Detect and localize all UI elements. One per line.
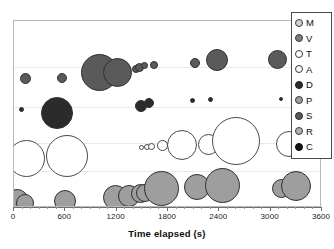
- plot-area: [13, 20, 321, 207]
- x-tick-label: 600: [58, 212, 72, 221]
- x-tick-mark: [270, 207, 271, 211]
- legend-item-label: V: [306, 34, 312, 44]
- x-minor-tick: [278, 207, 279, 209]
- x-minor-tick: [235, 207, 236, 209]
- x-minor-tick: [201, 207, 202, 209]
- legend-item-c[interactable]: C: [295, 139, 331, 155]
- bubble-marker: [141, 62, 148, 69]
- x-minor-tick: [39, 207, 40, 209]
- x-minor-tick: [107, 207, 108, 209]
- bubble-marker: [208, 97, 213, 102]
- bubble-marker: [279, 97, 283, 101]
- legend-marker-icon: [295, 96, 303, 104]
- bubble-marker: [144, 171, 179, 206]
- x-tick-label: 2400: [209, 212, 227, 221]
- legend-marker-icon: [295, 50, 303, 58]
- legend-item-m[interactable]: M: [295, 15, 331, 31]
- x-minor-tick: [124, 207, 125, 209]
- legend-item-label: T: [306, 49, 312, 59]
- legend-item-s[interactable]: S: [295, 108, 331, 124]
- legend-item-r[interactable]: R: [295, 124, 331, 140]
- x-tick-mark: [64, 207, 65, 211]
- legend-marker-icon: [295, 65, 303, 73]
- x-tick-label: 1200: [107, 212, 125, 221]
- legend-item-a[interactable]: A: [295, 62, 331, 78]
- bubble-marker: [16, 194, 34, 207]
- legend-item-d[interactable]: D: [295, 77, 331, 93]
- bubble-marker: [57, 73, 67, 83]
- bubble-marker: [41, 97, 73, 129]
- legend-marker-icon: [295, 127, 303, 135]
- x-tick-label: 3600: [312, 212, 330, 221]
- bubble-chart-figure: 060012001800240030003600 Time elapsed (s…: [0, 0, 334, 249]
- x-minor-tick: [184, 207, 185, 209]
- x-minor-tick: [158, 207, 159, 209]
- legend-marker-icon: [295, 19, 303, 27]
- bubble-marker: [206, 49, 228, 71]
- x-tick-mark: [321, 207, 322, 211]
- x-minor-tick: [295, 207, 296, 209]
- x-minor-tick: [81, 207, 82, 209]
- x-minor-tick: [141, 207, 142, 209]
- bubble-marker: [212, 117, 260, 165]
- x-minor-tick: [47, 207, 48, 209]
- bubble-marker: [281, 171, 311, 201]
- legend-item-t[interactable]: T: [295, 46, 331, 62]
- legend-item-label: C: [306, 142, 313, 152]
- x-tick-label: 3000: [261, 212, 279, 221]
- x-minor-tick: [304, 207, 305, 209]
- x-axis-title: Time elapsed (s): [0, 228, 334, 239]
- x-minor-tick: [176, 207, 177, 209]
- x-tick-label: 0: [11, 212, 16, 221]
- legend-item-v[interactable]: V: [295, 31, 331, 47]
- x-minor-tick: [22, 207, 23, 209]
- legend-item-label: P: [306, 96, 312, 106]
- x-tick-mark: [218, 207, 219, 211]
- x-minor-tick: [133, 207, 134, 209]
- bubble-marker: [190, 58, 200, 68]
- x-tick-label: 1800: [158, 212, 176, 221]
- x-minor-tick: [210, 207, 211, 209]
- x-minor-tick: [99, 207, 100, 209]
- x-minor-tick: [287, 207, 288, 209]
- legend-marker-icon: [295, 34, 303, 42]
- bubble-marker: [205, 168, 240, 203]
- bubble-marker: [103, 58, 132, 87]
- bubble-marker: [268, 50, 287, 69]
- bubble-marker: [190, 98, 195, 103]
- bubble-marker: [20, 73, 31, 84]
- x-minor-tick: [150, 207, 151, 209]
- x-tick-mark: [167, 207, 168, 211]
- legend-item-label: R: [306, 127, 313, 137]
- bubble-marker: [54, 190, 76, 207]
- bubble-marker: [148, 143, 155, 150]
- x-minor-tick: [56, 207, 57, 209]
- x-minor-tick: [30, 207, 31, 209]
- x-minor-tick: [261, 207, 262, 209]
- bubble-marker: [46, 135, 88, 177]
- x-minor-tick: [244, 207, 245, 209]
- legend-item-label: S: [306, 111, 312, 121]
- x-minor-tick: [227, 207, 228, 209]
- x-tick-mark: [116, 207, 117, 211]
- legend-marker-icon: [295, 112, 303, 120]
- x-minor-tick: [312, 207, 313, 209]
- legend: MVTADPSRC: [291, 12, 332, 159]
- legend-item-p[interactable]: P: [295, 93, 331, 109]
- legend-item-label: D: [306, 80, 313, 90]
- bubble-marker: [167, 130, 197, 160]
- legend-marker-icon: [295, 143, 303, 151]
- x-minor-tick: [253, 207, 254, 209]
- legend-marker-icon: [295, 81, 303, 89]
- legend-item-label: M: [306, 18, 314, 28]
- bubble-marker: [19, 107, 24, 112]
- legend-item-label: A: [306, 65, 312, 75]
- x-minor-tick: [193, 207, 194, 209]
- x-tick-mark: [13, 207, 14, 211]
- x-minor-tick: [90, 207, 91, 209]
- x-minor-tick: [73, 207, 74, 209]
